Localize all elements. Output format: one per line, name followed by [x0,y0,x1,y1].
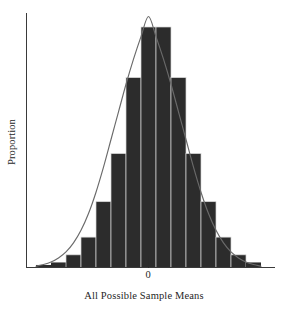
y-axis-label: Proportion [0,135,47,149]
histogram-bar [201,202,216,268]
histogram-bar [141,27,156,268]
histogram-bar [96,202,111,268]
histogram-plot [0,0,288,315]
histogram-bar [81,237,96,267]
x-axis-tick-label-zero: 0 [128,270,168,281]
histogram-bar [66,255,81,268]
x-axis-label: All Possible Sample Means [0,291,288,302]
histogram-bar [156,27,171,268]
histogram-bar [186,154,201,268]
histogram-bar [171,78,186,268]
histogram-bar [111,154,126,268]
chart-figure: Proportion 0 All Possible Sample Means [0,0,288,315]
histogram-bar [126,78,141,268]
histogram-bar [216,237,231,267]
histogram-bar [51,262,66,267]
